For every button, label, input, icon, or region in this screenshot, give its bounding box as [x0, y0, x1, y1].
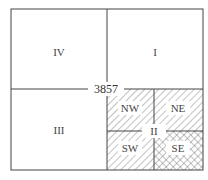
- subquadrant-sw-label: SW: [122, 142, 139, 154]
- quadrant-ii-label: II: [150, 125, 158, 137]
- quadrant-i-label: I: [153, 46, 157, 58]
- subquadrant-nw-label: NW: [121, 102, 140, 114]
- subquadrant-se-label: SE: [172, 142, 185, 154]
- quadrant-iii-label: III: [54, 124, 65, 136]
- center-label: 3857: [94, 82, 118, 96]
- quadrant-iv-label: IV: [53, 46, 65, 58]
- subquadrant-ne-label: NE: [171, 102, 186, 114]
- quadtree-diagram: IV I III II NW NE SW SE 3857: [0, 0, 208, 180]
